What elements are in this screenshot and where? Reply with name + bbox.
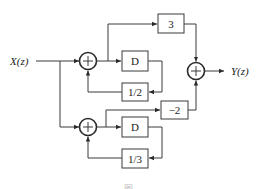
input-label: X(z) [9,55,29,68]
upper-feedback-line [88,71,122,93]
gain-neg2-to-output-adder [188,81,196,111]
lower-feedback-line [88,137,122,159]
upper-delay-label: D [131,55,139,67]
gain3-to-output-adder [184,24,196,62]
output-label: Y(z) [231,65,249,78]
figure-caption: 图 [124,184,133,189]
upper-adder [80,53,97,70]
upper-delay-to-feedback [148,61,162,92]
input-branch-lower [60,61,79,127]
upper-feedback-gain-label: 1/2 [128,86,142,98]
upper-feedforward-gain-label: 3 [168,18,174,30]
lower-feedback-gain-label: 1/3 [128,153,143,165]
lower-feedforward-gain-label: −2 [169,104,181,116]
lower-delay-to-feedback [148,127,162,158]
lower-adder [80,119,97,136]
block-diagram: X(z) D 1/2 3 D 1/3 −2 Y [0,0,257,189]
lower-delay-label: D [131,121,139,133]
output-adder [188,63,205,80]
